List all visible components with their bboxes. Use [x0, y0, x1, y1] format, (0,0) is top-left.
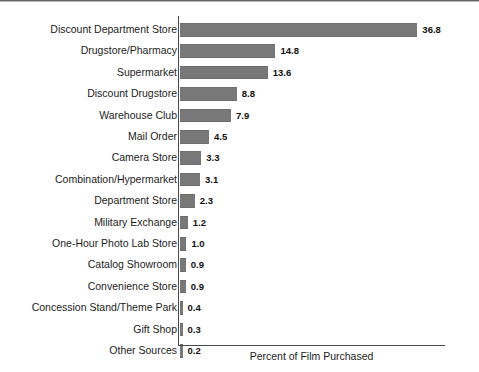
category-label: Military Exchange — [0, 212, 177, 233]
bar-row: Concession Stand/Theme Park0.4 — [0, 297, 479, 318]
bar — [180, 87, 237, 101]
category-label: Gift Shop — [0, 319, 177, 340]
bar-value-label: 14.8 — [280, 40, 299, 61]
category-label: One-Hour Photo Lab Store — [0, 233, 177, 254]
bar-value-label: 1.2 — [193, 212, 206, 233]
category-label: Catalog Showroom — [0, 254, 177, 275]
bar-row: Supermarket13.6 — [0, 62, 479, 83]
bar — [180, 151, 201, 165]
category-label: Other Sources — [0, 340, 177, 361]
bar — [180, 323, 183, 337]
bar — [180, 66, 268, 80]
bar-row: Discount Drugstore8.8 — [0, 83, 479, 104]
bar-row: Catalog Showroom0.9 — [0, 254, 479, 275]
bar-row: Warehouse Club7.9 — [0, 105, 479, 126]
plot-area: Discount Department Store36.8Drugstore/P… — [0, 14, 479, 346]
bar-row: Mail Order4.5 — [0, 126, 479, 147]
bar-value-label: 8.8 — [242, 83, 255, 104]
bar — [180, 173, 200, 187]
bar-value-label: 2.3 — [200, 190, 213, 211]
bar-row: Convenience Store0.9 — [0, 276, 479, 297]
category-label: Department Store — [0, 190, 177, 211]
bar — [180, 109, 231, 123]
bar — [180, 23, 417, 37]
bar — [180, 194, 195, 208]
category-label: Convenience Store — [0, 276, 177, 297]
bar-value-label: 1.0 — [191, 233, 204, 254]
bar-value-label: 7.9 — [236, 105, 249, 126]
page-top-rule — [0, 0, 479, 2]
category-label: Discount Department Store — [0, 19, 177, 40]
y-axis-line — [178, 16, 179, 346]
bar-value-label: 36.8 — [422, 19, 441, 40]
bar-row: Department Store2.3 — [0, 190, 479, 211]
category-label: Combination/Hypermarket — [0, 169, 177, 190]
bar-chart-figure: Discount Department Store36.8Drugstore/P… — [0, 0, 479, 372]
category-label: Mail Order — [0, 126, 177, 147]
x-axis-line — [178, 345, 445, 346]
bar-value-label: 3.1 — [205, 169, 218, 190]
category-label: Drugstore/Pharmacy — [0, 40, 177, 61]
bar-row: Discount Department Store36.8 — [0, 19, 479, 40]
category-label: Warehouse Club — [0, 105, 177, 126]
category-label: Discount Drugstore — [0, 83, 177, 104]
x-axis-title: Percent of Film Purchased — [178, 350, 445, 362]
bar — [180, 44, 275, 58]
bar-value-label: 0.3 — [188, 319, 201, 340]
category-label: Camera Store — [0, 147, 177, 168]
bar-value-label: 4.5 — [214, 126, 227, 147]
bar — [180, 258, 186, 272]
bar-value-label: 0.4 — [188, 297, 201, 318]
category-label: Concession Stand/Theme Park — [0, 297, 177, 318]
bar — [180, 216, 188, 230]
bar-value-label: 3.3 — [206, 147, 219, 168]
bar — [180, 301, 183, 315]
bar-row: Military Exchange1.2 — [0, 212, 479, 233]
bar-row: Gift Shop0.3 — [0, 319, 479, 340]
bar-row: Camera Store3.3 — [0, 147, 479, 168]
bar — [180, 280, 186, 294]
bar-row: Drugstore/Pharmacy14.8 — [0, 40, 479, 61]
bar-row: One-Hour Photo Lab Store1.0 — [0, 233, 479, 254]
category-label: Supermarket — [0, 62, 177, 83]
bar-row: Combination/Hypermarket3.1 — [0, 169, 479, 190]
bar-value-label: 13.6 — [273, 62, 292, 83]
bar-value-label: 0.9 — [191, 254, 204, 275]
bar-value-label: 0.9 — [191, 276, 204, 297]
bar — [180, 130, 209, 144]
bar — [180, 237, 186, 251]
